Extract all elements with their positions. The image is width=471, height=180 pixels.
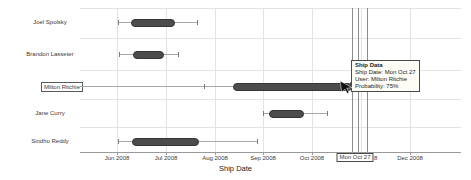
whisker-cap [204, 84, 205, 89]
x-tick-label: Sep 2008 [250, 155, 276, 162]
vertical-gridline [312, 8, 313, 152]
ship-date-range-bar[interactable] [269, 110, 304, 118]
x-tick-label: Jul 2008 [155, 155, 178, 162]
x-tick-label: Oct 2008 [300, 155, 324, 162]
category-label-milton-ritchie: Milton Ritchie [41, 82, 83, 92]
whisker-cap [257, 139, 258, 144]
tooltip-line: Probability: 75% [355, 83, 416, 90]
tooltip-title: Ship Data [355, 62, 416, 69]
horizontal-gridline [80, 99, 461, 100]
category-label-brandon-lasseter: Brandon Lasseter [4, 50, 96, 58]
covered-tick-remnant: 8 [374, 155, 377, 162]
ship-date-range-bar[interactable] [233, 83, 352, 91]
vertical-gridline [263, 8, 264, 152]
whisker-cap [118, 20, 119, 25]
x-axis-title: Ship Date [0, 164, 471, 173]
category-label-sindhu-reddy: Sindhu Reddy [4, 137, 96, 145]
ship-date-range-bar[interactable] [133, 51, 164, 59]
selected-date-tick-label: Mon Oct 27 [336, 153, 373, 162]
x-tick-label: Dec 2008 [397, 155, 423, 162]
ship-date-range-bar[interactable] [132, 138, 199, 146]
horizontal-gridline [80, 8, 461, 9]
whisker-cap [197, 20, 198, 25]
whisker-cap [118, 139, 119, 144]
vertical-gridline [215, 8, 216, 152]
vertical-gridline [166, 8, 167, 152]
horizontal-gridline [80, 127, 461, 128]
whisker-cap [263, 111, 264, 116]
whisker-cap [327, 111, 328, 116]
ship-date-range-bar[interactable] [131, 19, 175, 27]
whisker-line [80, 86, 233, 87]
tooltip: Ship Data Ship Date: Mon Oct 27User: Mil… [351, 60, 420, 92]
tooltip-line: User: Milton Ritchie [355, 76, 416, 83]
tooltip-line: Ship Date: Mon Oct 27 [355, 69, 416, 76]
vertical-gridline [117, 8, 118, 152]
horizontal-gridline [80, 38, 461, 39]
category-label-jane-curry: Jane Curry [4, 109, 96, 117]
whisker-cap [119, 52, 120, 57]
whisker-cap [178, 52, 179, 57]
x-tick-label: Jun 2008 [105, 155, 130, 162]
category-label-joel-spolsky: Joel Spolsky [4, 18, 96, 26]
x-tick-label: Aug 2008 [202, 155, 228, 162]
mouse-cursor-icon [340, 80, 354, 94]
x-axis-line [80, 152, 461, 153]
ship-date-chart: Joel SpolskyBrandon LasseterMilton Ritch… [0, 0, 471, 180]
